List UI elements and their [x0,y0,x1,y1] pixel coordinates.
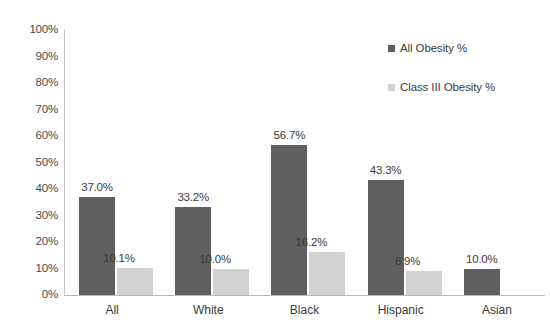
bar-hispanic-series-1 [368,180,404,295]
bar-value-label-hispanic-series-1: 43.3% [365,164,407,176]
legend-item-class-iii-obesity: Class III Obesity % [388,81,495,93]
y-axis-tick-10: 10% [10,262,58,274]
bar-value-label-asian-series-1: 10.0% [461,253,503,265]
legend-swatch-icon-class-iii-obesity [388,84,395,91]
bar-chart: 100%90%80%70%60%50%40%30%20%10%0% 37.0%1… [0,0,550,334]
bar-hispanic-series-2 [406,271,442,295]
y-axis-tick-70: 70% [10,103,58,115]
bar-value-label-hispanic-series-2: 8.9% [387,255,429,267]
bar-value-label-all-series-1: 37.0% [76,181,118,193]
y-axis-tick-100: 100% [10,23,58,35]
bar-black-series-2 [309,252,345,295]
bar-value-label-all-series-2: 10.1% [98,252,140,264]
bar-value-label-white-series-2: 10.0% [194,253,236,265]
bar-group-all: 37.0%10.1% [64,30,160,295]
y-axis-tick-30: 30% [10,209,58,221]
y-axis-tick-40: 40% [10,182,58,194]
bar-group-black: 56.7%16.2% [256,30,352,295]
x-axis-category-hispanic: Hispanic [353,303,449,317]
y-axis-tick-60: 60% [10,129,58,141]
x-axis-category-white: White [160,303,256,317]
bar-black-series-1 [271,145,307,295]
legend-label-all-obesity: All Obesity % [400,42,467,54]
legend-item-all-obesity: All Obesity % [388,42,495,54]
bar-all-series-2 [117,268,153,295]
y-axis-tick-80: 80% [10,76,58,88]
y-axis-tick-0: 0% [10,288,58,300]
legend-label-class-iii-obesity: Class III Obesity % [400,81,495,93]
bar-all-series-1 [79,197,115,295]
bar-white-series-2 [213,269,249,296]
x-axis-category-asian: Asian [449,303,545,317]
bar-value-label-black-series-2: 16.2% [290,236,332,248]
x-axis-category-all: All [64,303,160,317]
y-axis-tick-50: 50% [10,156,58,168]
y-axis-tick-90: 90% [10,50,58,62]
legend-swatch-icon-all-obesity [388,45,395,52]
bar-group-white: 33.2%10.0% [160,30,256,295]
bar-white-series-1 [175,207,211,295]
bar-value-label-white-series-1: 33.2% [172,191,214,203]
y-axis-tick-20: 20% [10,235,58,247]
x-axis-line [64,295,545,296]
y-axis-tick-labels: 100%90%80%70%60%50%40%30%20%10%0% [0,0,58,334]
chart-legend: All Obesity % Class III Obesity % [388,42,495,120]
bar-asian-series-1 [464,269,500,296]
x-axis-category-black: Black [256,303,352,317]
bar-value-label-black-series-1: 56.7% [268,129,310,141]
